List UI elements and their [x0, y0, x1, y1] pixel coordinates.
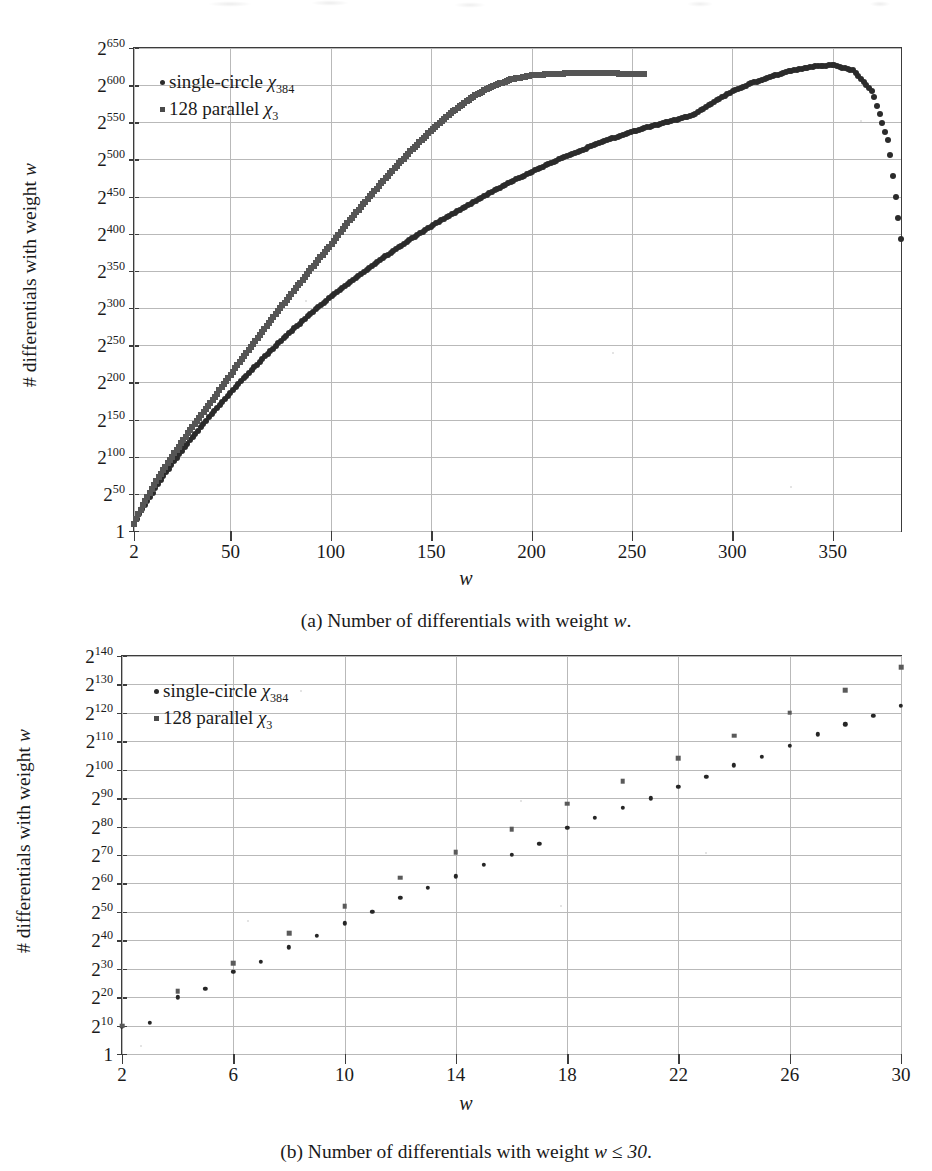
y-tick-label-b-120: 2120: [85, 703, 113, 722]
scan-speck: [140, 1045, 142, 1047]
y-axis-title-text-b: # differentials with weight: [13, 742, 34, 953]
data-point-128-parallel: [843, 688, 848, 693]
x-axis-title-b: w: [0, 1092, 932, 1115]
y-axis-title-text-a: # differentials with weight: [19, 176, 40, 387]
y-tick-label-b-100: 2100: [85, 760, 113, 779]
data-point-single-circle: [509, 853, 513, 857]
caption-a-suffix: .: [626, 610, 631, 631]
x-tick-label-b-10: 10: [335, 1065, 354, 1084]
y-tick-label-b-140: 2140: [85, 647, 113, 666]
x-axis-title-text-a: w: [459, 567, 472, 589]
y-tick-label-b-130: 2130: [85, 675, 113, 694]
y-tick-label-b-110: 2110: [86, 732, 113, 751]
x-tick-label-a-2: 2: [129, 542, 139, 561]
y-tick-label-b-30: 230: [91, 959, 113, 978]
data-point-128-parallel: [231, 961, 236, 966]
data-point-single-circle: [537, 841, 541, 845]
y-tick-label-b-20: 220: [91, 988, 113, 1007]
y-tick-label-a-1: 1: [116, 522, 126, 541]
y-tick-label-a-150: 2150: [97, 410, 125, 429]
scan-speck: [300, 690, 302, 692]
y-tick-label-a-500: 2500: [97, 150, 125, 169]
caption-a-var: w: [613, 610, 626, 631]
caption-b-suffix: .: [647, 1141, 652, 1162]
scan-speck: [305, 300, 307, 302]
y-tick-label-b-80: 280: [91, 817, 113, 836]
series-container-b: [122, 656, 901, 1054]
y-tick-label-a-650: 2650: [97, 39, 125, 58]
data-point-single-circle: [426, 885, 430, 889]
y-axis-title-var-a: w: [19, 163, 40, 176]
data-point-128-parallel: [287, 931, 292, 936]
scan-speck: [705, 852, 707, 854]
data-point-single-circle: [175, 995, 179, 999]
scan-speck: [860, 120, 862, 122]
data-point-single-circle: [621, 806, 625, 810]
data-point-single-circle: [231, 969, 235, 973]
data-point-single-circle: [843, 722, 847, 726]
x-tick-label-b-26: 26: [780, 1065, 799, 1084]
data-point-single-circle: [882, 129, 888, 135]
x-tick-label-b-18: 18: [558, 1065, 577, 1084]
data-point-single-circle: [565, 826, 569, 830]
data-point-single-circle: [885, 137, 891, 143]
data-point-single-circle: [315, 934, 319, 938]
x-axis-title-a: w: [0, 567, 932, 590]
plot-area-b: 2140 2130 2120 2110 2100 290 280 270: [121, 655, 902, 1055]
y-tick-label-b-90: 290: [91, 789, 113, 808]
x-tick-label-b-2: 2: [117, 1065, 127, 1084]
scan-speck: [247, 920, 249, 922]
y-tick-label-a-100: 2100: [97, 447, 125, 466]
data-point-single-circle: [732, 763, 736, 767]
data-point-128-parallel: [620, 779, 625, 784]
y-tick-label-b-60: 260: [91, 874, 113, 893]
x-tick-label-a-150: 150: [417, 542, 446, 561]
y-axis-title-var-b: w: [13, 729, 34, 742]
data-point-128-parallel: [454, 850, 459, 855]
data-point-single-circle: [148, 1021, 152, 1025]
plot-area-a: 2650 2600 2550 2500 2450 2400 2350 2300: [133, 47, 902, 532]
x-tick-label-a-50: 50: [221, 542, 240, 561]
x-tick-label-b-6: 6: [229, 1065, 239, 1084]
data-point-single-circle: [893, 194, 899, 200]
y-tick-label-a-300: 2300: [97, 299, 125, 318]
data-point-128-parallel: [175, 989, 180, 994]
data-point-single-circle: [398, 895, 402, 899]
y-tick-label-a-600: 2600: [97, 76, 125, 95]
scan-artifact-top: [0, 0, 932, 16]
data-point-single-circle: [760, 755, 764, 759]
data-point-single-circle: [879, 120, 885, 126]
x-tick-label-b-22: 22: [669, 1065, 688, 1084]
data-point-128-parallel: [899, 665, 904, 670]
y-tick-label-a-250: 2250: [97, 336, 125, 355]
data-point-single-circle: [899, 704, 903, 708]
y-tick-label-a-550: 2550: [97, 113, 125, 132]
data-point-single-circle: [342, 921, 346, 925]
data-point-single-circle: [898, 236, 904, 242]
data-point-single-circle: [890, 173, 896, 179]
x-tick-label-b-14: 14: [446, 1065, 465, 1084]
data-point-single-circle: [871, 713, 875, 717]
x-axis-title-text-b: w: [459, 1092, 472, 1114]
data-point-128-parallel: [676, 756, 681, 761]
data-point-128-parallel: [509, 827, 514, 832]
data-point-128-parallel: [787, 711, 792, 716]
y-tick-label-a-50: 250: [103, 484, 125, 503]
y-tick-label-a-400: 2400: [97, 224, 125, 243]
y-tick-label-b-70: 270: [91, 846, 113, 865]
x-tick-label-a-100: 100: [317, 542, 346, 561]
data-point-single-circle: [895, 215, 901, 221]
data-point-single-circle: [788, 743, 792, 747]
data-point-single-circle: [704, 775, 708, 779]
x-tick-label-b-30: 30: [892, 1065, 911, 1084]
y-tick-label-b-50: 250: [91, 902, 113, 921]
data-point-single-circle: [259, 959, 263, 963]
series-container-a: [134, 48, 901, 531]
y-tick-label-b-1: 1: [104, 1045, 114, 1064]
caption-b: (b) Number of differentials with weight …: [0, 1141, 932, 1163]
data-point-single-circle: [676, 785, 680, 789]
caption-a: (a) Number of differentials with weight …: [0, 610, 932, 632]
data-point-128-parallel: [565, 802, 570, 807]
figure-panel-b: # differentials with weight w 2140 2130 …: [0, 630, 932, 1150]
data-point-single-circle: [887, 152, 893, 158]
